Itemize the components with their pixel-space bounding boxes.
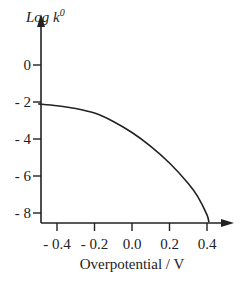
y-tick-label: - 2 <box>15 94 31 110</box>
series <box>38 104 209 222</box>
y-axis-title-main: Log k <box>25 9 60 25</box>
y-ticks: 0- 2- 4- 6- 8 <box>15 57 41 221</box>
x-ticks: - 0.4- 0.20.00.20.4 <box>43 223 217 252</box>
x-axis-arrow <box>221 219 234 227</box>
axes <box>37 14 234 227</box>
y-tick-label: - 4 <box>15 131 32 147</box>
x-tick-label: 0.2 <box>160 236 179 252</box>
y-tick-label: 0 <box>24 57 32 73</box>
y-tick-label: - 6 <box>15 168 32 184</box>
x-tick-label: - 0.2 <box>81 236 109 252</box>
y-tick-label: - 8 <box>15 205 31 221</box>
x-tick-label: 0.0 <box>123 236 142 252</box>
y-axis-title: Log k0 <box>25 7 65 25</box>
series-line <box>38 104 209 222</box>
chart: - 0.4- 0.20.00.20.4 0- 2- 4- 6- 8 Log k0… <box>0 0 244 290</box>
x-axis-title: Overpotential / V <box>80 256 185 272</box>
x-tick-label: - 0.4 <box>43 236 71 252</box>
x-tick-label: 0.4 <box>198 236 217 252</box>
y-axis-title-superscript: 0 <box>60 7 65 18</box>
